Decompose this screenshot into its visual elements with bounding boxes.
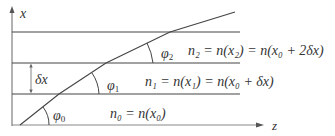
x-axis-label: x xyxy=(19,6,27,21)
angle-label-1: φ1 xyxy=(107,78,119,94)
layer-0-label: n₀ = n(x₀) xyxy=(110,106,166,122)
layer-2-label: n₂ = n(x₂) = n(x₀ + 2δx) xyxy=(188,43,324,59)
spacing-arrow-down-icon xyxy=(29,90,32,94)
x-axis-arrow-icon xyxy=(10,6,15,13)
angle-label-2: φ2 xyxy=(161,46,173,62)
angle-arc-1 xyxy=(92,73,99,94)
angle-label-0: φ0 xyxy=(53,108,66,124)
z-axis-arrow-icon xyxy=(256,123,264,128)
z-axis-label: z xyxy=(271,118,277,133)
angle-arc-2 xyxy=(147,43,153,63)
layered-medium-diagram: x z δx φ0 φ1 φ2 n₀ = n(x₀) n₁ = n(x₁) = … xyxy=(0,0,335,136)
layer-1-label: n₁ = n(x₁) = n(x₀ + δx) xyxy=(145,74,274,90)
spacing-label: δx xyxy=(35,72,49,87)
angle-arc-0 xyxy=(43,107,49,125)
spacing-arrow-up-icon xyxy=(29,64,32,68)
